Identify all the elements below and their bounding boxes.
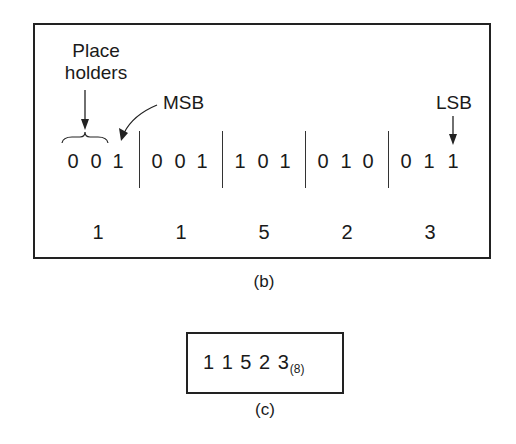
caption-c: (c) bbox=[245, 400, 285, 420]
group-divider bbox=[139, 131, 140, 188]
bit: 1 bbox=[446, 150, 460, 172]
bit: 1 bbox=[111, 150, 125, 172]
group-divider bbox=[222, 131, 223, 188]
group-divider bbox=[305, 131, 306, 188]
bit: 0 bbox=[361, 150, 375, 172]
octal-digit: 3 bbox=[420, 221, 440, 243]
bit: 0 bbox=[173, 150, 187, 172]
octal-digit: 1 bbox=[88, 221, 108, 243]
bit: 0 bbox=[316, 150, 330, 172]
bit: 1 bbox=[422, 150, 436, 172]
octal-digit: 5 bbox=[254, 221, 274, 243]
curly-brace-icon bbox=[62, 132, 108, 143]
lsb-arrow-icon bbox=[449, 116, 457, 145]
bit: 1 bbox=[233, 150, 247, 172]
bit: 1 bbox=[339, 150, 353, 172]
octal-digit: 1 bbox=[171, 221, 191, 243]
bit: 0 bbox=[399, 150, 413, 172]
octal-result: 1 1 5 2 3(8) bbox=[203, 350, 305, 381]
base-subscript: (8) bbox=[290, 362, 305, 376]
bit: 0 bbox=[150, 150, 164, 172]
octal-result-digits: 1 1 5 2 3 bbox=[203, 351, 289, 373]
bit: 1 bbox=[278, 150, 292, 172]
group-divider bbox=[388, 131, 389, 188]
bit: 0 bbox=[89, 150, 103, 172]
octal-digit: 2 bbox=[337, 221, 357, 243]
bit: 0 bbox=[66, 150, 80, 172]
bit: 0 bbox=[256, 150, 270, 172]
caption-b: (b) bbox=[244, 272, 284, 292]
msb-arrow-icon bbox=[119, 105, 157, 141]
place-holders-arrow-icon bbox=[81, 90, 89, 130]
bit: 1 bbox=[195, 150, 209, 172]
